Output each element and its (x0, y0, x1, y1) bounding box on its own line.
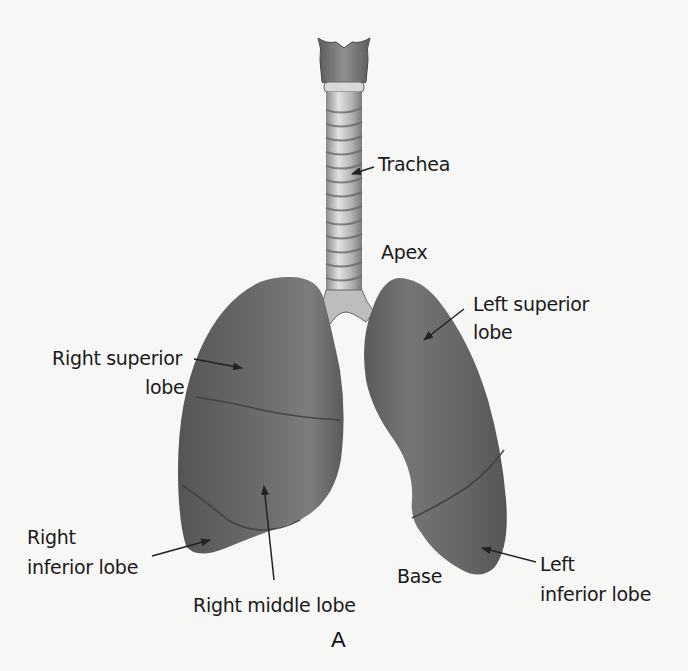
label-right-inferior-lobe-line1: Right (27, 525, 76, 549)
label-left-superior-lobe-line2: lobe (473, 320, 512, 344)
label-base: Base (397, 564, 442, 588)
label-right-inferior-lobe-line2: inferior lobe (27, 555, 138, 579)
label-left-inferior-lobe-line2: inferior lobe (540, 582, 651, 606)
label-trachea: Trachea (378, 152, 450, 176)
right-lung (178, 277, 344, 554)
label-left-superior-lobe-line1: Left superior (473, 292, 589, 316)
label-right-superior-lobe-line1: Right superior (52, 346, 182, 370)
label-apex: Apex (381, 240, 427, 264)
panel-letter: A (331, 627, 346, 653)
label-right-middle-lobe: Right middle lobe (193, 593, 356, 617)
label-left-inferior-lobe-line1: Left (540, 552, 575, 576)
label-right-superior-lobe-line2: lobe (145, 375, 184, 399)
larynx (318, 38, 370, 92)
lung-anatomy-diagram: Trachea Apex Left superior lobe Right su… (0, 0, 688, 671)
trachea (318, 92, 374, 324)
